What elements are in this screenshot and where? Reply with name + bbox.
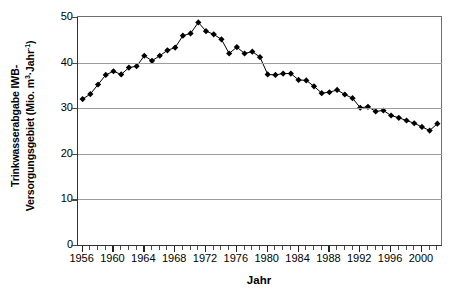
y-tick-mark-10: [71, 199, 77, 200]
data-point-1968: [172, 44, 178, 50]
y-axis-title: Trinkwasserabgabe IWB- Versorgungsgebiet…: [0, 0, 56, 252]
x-tick-minor-1999: [413, 246, 414, 250]
x-tick-minor-2002: [436, 246, 437, 250]
x-tick-minor-1993: [367, 246, 368, 250]
x-tick-minor-1998: [406, 246, 407, 250]
y-tick-mark-30: [71, 108, 77, 109]
data-point-1974: [218, 36, 224, 42]
y-tick-label-50: 50: [53, 11, 73, 22]
x-tick-minor-1978: [251, 246, 252, 250]
x-tick-label-2000: 2000: [401, 252, 441, 264]
data-point-1979: [257, 54, 263, 60]
y-axis-title-line2-pre: Versorgungsgebiet (Mio. m: [24, 79, 36, 211]
data-point-1996: [388, 112, 394, 118]
x-tick-minor-1995: [382, 246, 383, 250]
data-point-1998: [403, 117, 409, 123]
x-tick-minor-1966: [159, 246, 160, 250]
x-tick-minor-1979: [259, 246, 260, 250]
x-tick-minor-1962: [128, 246, 129, 250]
y-axis-tick-labels: 01020304050: [52, 0, 73, 260]
y-tick-mark-20: [71, 154, 77, 155]
x-tick-minor-1963: [136, 246, 137, 250]
y-tick-label-0: 0: [53, 239, 73, 250]
x-tick-minor-1977: [244, 246, 245, 250]
y-tick-mark-0: [71, 245, 77, 246]
data-point-1956: [80, 96, 86, 102]
y-tick-label-10: 10: [53, 193, 73, 204]
data-point-1999: [411, 120, 417, 126]
x-tick-minor-1971: [197, 246, 198, 250]
x-tick-minor-1970: [190, 246, 191, 250]
x-tick-minor-1958: [97, 246, 98, 250]
data-point-1978: [249, 49, 255, 55]
y-axis-title-line2: Versorgungsgebiet (Mio. m3·Jahr-1): [23, 16, 38, 236]
x-tick-minor-1969: [182, 246, 183, 250]
x-tick-minor-1981: [274, 246, 275, 250]
data-point-1967: [164, 47, 170, 53]
x-tick-minor-1982: [282, 246, 283, 250]
data-point-1970: [187, 30, 193, 36]
y-axis-title-line1: Trinkwasserabgabe IWB-: [8, 16, 23, 236]
x-tick-minor-1990: [344, 246, 345, 250]
gridline-y-20: [78, 154, 442, 155]
x-tick-minor-1987: [321, 246, 322, 250]
x-tick-minor-1967: [166, 246, 167, 250]
x-tick-minor-1989: [336, 246, 337, 250]
data-point-1988: [326, 89, 332, 95]
y-tick-label-20: 20: [53, 148, 73, 159]
data-point-1990: [342, 91, 348, 97]
y-tick-label-40: 40: [53, 57, 73, 68]
x-tick-minor-1991: [352, 246, 353, 250]
data-point-1982: [280, 70, 286, 76]
data-point-1966: [157, 53, 163, 59]
y-tick-label-30: 30: [53, 102, 73, 113]
y-axis-title-exponent-inverse: -1: [24, 44, 31, 50]
data-point-1980: [265, 71, 271, 77]
y-axis-title-line2-post: ): [24, 41, 36, 44]
x-tick-minor-1994: [375, 246, 376, 250]
data-point-1969: [180, 33, 186, 39]
x-tick-minor-1985: [305, 246, 306, 250]
x-tick-minor-1974: [220, 246, 221, 250]
gridline-y-10: [78, 199, 442, 200]
data-point-1973: [211, 31, 217, 37]
data-point-1981: [272, 72, 278, 78]
y-tick-mark-50: [71, 17, 77, 18]
gridline-y-30: [78, 108, 442, 109]
y-axis-title-line2-mid: ·Jahr: [24, 50, 36, 75]
y-axis-title-exponent-cubic: 3: [24, 75, 31, 79]
data-point-2000: [419, 124, 425, 130]
x-tick-minor-1986: [313, 246, 314, 250]
data-point-1960: [110, 68, 116, 74]
x-tick-minor-1975: [228, 246, 229, 250]
x-tick-minor-1959: [105, 246, 106, 250]
series-line: [83, 22, 438, 130]
x-tick-minor-1961: [120, 246, 121, 250]
y-tick-mark-40: [71, 63, 77, 64]
data-point-1989: [334, 87, 340, 93]
x-tick-minor-1957: [89, 246, 90, 250]
x-tick-minor-1973: [213, 246, 214, 250]
chart-figure: Trinkwasserabgabe IWB- Versorgungsgebiet…: [0, 0, 455, 300]
data-point-1997: [396, 115, 402, 121]
gridline-y-40: [78, 63, 442, 64]
data-series-line: [78, 17, 442, 245]
x-axis-tick-labels: 1956196019641968197219761980198419881992…: [0, 252, 455, 268]
plot-area: [77, 17, 442, 246]
x-tick-minor-1997: [398, 246, 399, 250]
x-tick-minor-2001: [429, 246, 430, 250]
x-tick-minor-1983: [290, 246, 291, 250]
x-tick-minor-1965: [151, 246, 152, 250]
x-axis-title: Jahr: [77, 274, 441, 286]
data-point-1994: [373, 108, 379, 114]
